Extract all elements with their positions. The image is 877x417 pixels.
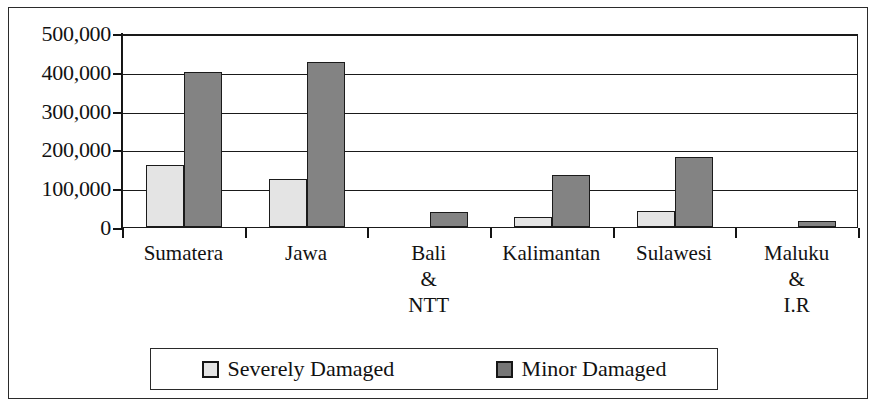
gridline bbox=[123, 74, 857, 75]
legend-swatch-minor bbox=[496, 361, 513, 378]
legend-entry: Severely Damaged bbox=[202, 358, 395, 380]
y-axis-tick-label: 300,000 bbox=[42, 101, 111, 123]
legend-entry: Minor Damaged bbox=[496, 358, 667, 380]
bar-severely-damaged bbox=[269, 179, 307, 228]
bar-minor-damaged bbox=[552, 175, 590, 227]
y-axis-tick-label: 500,000 bbox=[42, 23, 111, 45]
gridline bbox=[123, 190, 857, 191]
x-axis-category-label: Maluku & I.R bbox=[735, 240, 858, 318]
y-axis-tick-label: 0 bbox=[100, 217, 111, 239]
y-axis-tick bbox=[113, 34, 122, 36]
legend-swatch-severely-damaged bbox=[202, 361, 219, 378]
y-axis-tick bbox=[113, 73, 122, 75]
x-axis-tick bbox=[245, 228, 247, 238]
bar-minor-damaged bbox=[430, 212, 468, 227]
bar-minor-damaged bbox=[675, 157, 713, 227]
x-axis-tick bbox=[858, 228, 860, 238]
gridline bbox=[123, 151, 857, 152]
legend-label: Severely Damaged bbox=[228, 358, 395, 380]
x-axis-tick bbox=[735, 228, 737, 238]
chart-legend: Severely DamagedMinor Damaged bbox=[150, 348, 718, 390]
bar-severely-damaged bbox=[146, 165, 184, 227]
x-axis-category-label: Bali & NTT bbox=[367, 240, 490, 318]
x-axis-tick bbox=[122, 228, 124, 238]
legend-label: Minor Damaged bbox=[522, 358, 667, 380]
x-axis-category-label: Kalimantan bbox=[490, 240, 613, 266]
bar-severely-damaged bbox=[637, 211, 675, 227]
gridline bbox=[123, 113, 857, 114]
y-axis-tick-label: 100,000 bbox=[42, 178, 111, 200]
gridline bbox=[123, 35, 857, 36]
x-axis-tick bbox=[490, 228, 492, 238]
x-axis-category-label: Jawa bbox=[245, 240, 368, 266]
y-axis-tick bbox=[113, 228, 122, 230]
y-axis-tick bbox=[113, 189, 122, 191]
bar-minor-damaged bbox=[798, 221, 836, 227]
x-axis-category-label: Sulawesi bbox=[613, 240, 736, 266]
bar-minor-damaged bbox=[307, 62, 345, 227]
y-axis-tick-label: 200,000 bbox=[42, 139, 111, 161]
y-axis-tick bbox=[113, 150, 122, 152]
x-axis-category-label: Sumatera bbox=[122, 240, 245, 266]
bar-minor-damaged bbox=[184, 72, 222, 227]
y-axis-tick bbox=[113, 112, 122, 114]
plot-area bbox=[122, 34, 858, 228]
y-axis-tick-label: 400,000 bbox=[42, 62, 111, 84]
x-axis-tick bbox=[367, 228, 369, 238]
x-axis-tick bbox=[613, 228, 615, 238]
chart-figure: 0100,000200,000300,000400,000500,000 Sum… bbox=[0, 0, 877, 417]
bar-severely-damaged bbox=[514, 217, 552, 227]
y-axis-labels: 0100,000200,000300,000400,000500,000 bbox=[0, 0, 111, 300]
